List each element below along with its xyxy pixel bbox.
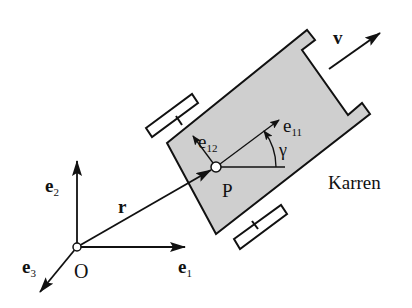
label-e1-sub: 1 [186, 267, 192, 279]
label-e2: e2 [45, 176, 59, 198]
point-p [211, 162, 221, 172]
position-vector-r [77, 170, 211, 247]
label-position-r: r [118, 197, 126, 216]
e3-axis-arrow [40, 247, 77, 292]
label-e12: e12 [198, 132, 217, 154]
label-e3-sub: 3 [30, 267, 36, 279]
label-e12-sub: 12 [206, 142, 217, 154]
label-e3: e3 [22, 257, 36, 279]
label-origin: O [74, 261, 88, 281]
label-e2-sub: 2 [53, 186, 59, 198]
diagram-canvas [0, 0, 412, 308]
label-e1: e1 [178, 257, 192, 279]
label-point-p: P [222, 181, 233, 200]
label-cart: Karren [328, 173, 381, 192]
label-e11: e11 [283, 116, 302, 138]
label-gamma: γ [279, 141, 287, 159]
cart-kinematics-diagram: v e11 e12 γ P Karren r e2 e1 e3 O [0, 0, 412, 308]
label-e11-sub: 11 [291, 126, 302, 138]
origin-point [73, 243, 81, 251]
label-velocity: v [333, 28, 343, 47]
